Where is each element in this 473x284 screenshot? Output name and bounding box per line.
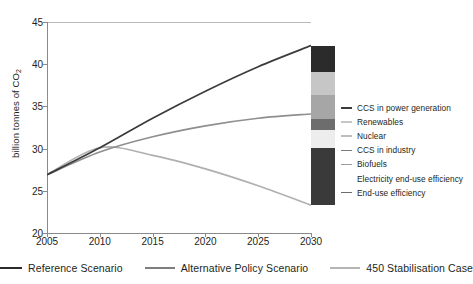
- wedge-segment-ccs-in-industry: [311, 119, 335, 130]
- wedge-legend-item: CCS in power generation: [341, 101, 465, 115]
- legend-dash-icon: [341, 178, 352, 180]
- wedge-segment-end-use-efficiency: [311, 173, 335, 205]
- y-axis-tick-labels: 202530354045: [0, 0, 43, 246]
- x-tick-mark: [258, 233, 259, 237]
- x-tick-label: 2020: [194, 236, 216, 247]
- scenario-legend-item: Reference Scenario: [0, 262, 123, 274]
- scenario-legend-label: Reference Scenario: [28, 262, 123, 274]
- legend-line-icon: [0, 267, 22, 269]
- wedge-legend-item: Renewables: [341, 115, 465, 129]
- wedge-legend-label: Nuclear: [357, 131, 386, 141]
- legend-line-icon: [145, 267, 175, 269]
- wedge-legend-label: End-use efficiency: [357, 188, 426, 198]
- wedge-legend-label: CCS in industry: [357, 145, 415, 155]
- scenario-legend-label: Alternative Policy Scenario: [181, 262, 309, 274]
- scenario-legend-item: Alternative Policy Scenario: [145, 262, 309, 274]
- x-tick-mark: [311, 233, 312, 237]
- series-line-alternative-policy-scenario: [47, 114, 311, 175]
- legend-dash-icon: [341, 192, 352, 194]
- x-tick-mark: [205, 233, 206, 237]
- wedge-segment-biofuels: [311, 130, 335, 148]
- x-tick-mark: [100, 233, 101, 237]
- legend-dash-icon: [341, 107, 352, 109]
- wedge-legend-item: Nuclear: [341, 129, 465, 143]
- scenario-legend-item: 450 Stabilisation Case: [330, 262, 473, 274]
- y-tick-label: 25: [32, 185, 43, 196]
- x-tick-label: 2025: [247, 236, 269, 247]
- x-axis-line: [47, 233, 311, 234]
- y-tick-label: 30: [32, 143, 43, 154]
- legend-dash-icon: [341, 135, 352, 137]
- wedge-legend-label: CCS in power generation: [357, 103, 451, 113]
- scenario-legend: Reference ScenarioAlternative Policy Sce…: [0, 252, 465, 284]
- x-tick-label: 2010: [89, 236, 111, 247]
- scenario-legend-label: 450 Stabilisation Case: [366, 262, 473, 274]
- y-tick-label: 40: [32, 59, 43, 70]
- wedge-legend-label: Electricity end-use efficiency: [357, 174, 463, 184]
- wedge-legend-item: CCS in industry: [341, 143, 465, 157]
- series-line-450-stabilisation-case: [47, 147, 311, 205]
- x-tick-label: 2030: [300, 236, 322, 247]
- x-tick-mark: [47, 233, 48, 237]
- wedge-segment-nuclear: [311, 95, 335, 119]
- plot-wrapper: billion tonnes of CO2 202530354045 20052…: [0, 0, 465, 246]
- x-tick-label: 2005: [36, 236, 58, 247]
- wedge-legend-item: Biofuels: [341, 157, 465, 171]
- legend-dash-icon: [341, 150, 352, 152]
- wedge-legend-label: Biofuels: [357, 159, 387, 169]
- wedge-segment-electricity-end-use-efficiency: [311, 148, 335, 173]
- wedge-legend-label: Renewables: [357, 117, 403, 127]
- wedge-legend: CCS in power generationRenewablesNuclear…: [341, 101, 465, 200]
- legend-dash-icon: [341, 164, 352, 166]
- x-tick-mark: [153, 233, 154, 237]
- series-lines: [47, 22, 311, 233]
- wedge-legend-item: End-use efficiency: [341, 186, 465, 200]
- series-line-reference-scenario: [47, 46, 311, 175]
- x-tick-label: 2015: [141, 236, 163, 247]
- abatement-wedge-bar: [311, 46, 335, 206]
- legend-dash-icon: [341, 121, 352, 123]
- wedge-legend-item: Electricity end-use efficiency: [341, 171, 465, 185]
- legend-line-icon: [330, 267, 360, 269]
- y-tick-label: 45: [32, 17, 43, 28]
- wedge-segment-ccs-in-power-generation: [311, 46, 335, 72]
- y-tick-label: 35: [32, 101, 43, 112]
- wedge-segment-renewables: [311, 72, 335, 96]
